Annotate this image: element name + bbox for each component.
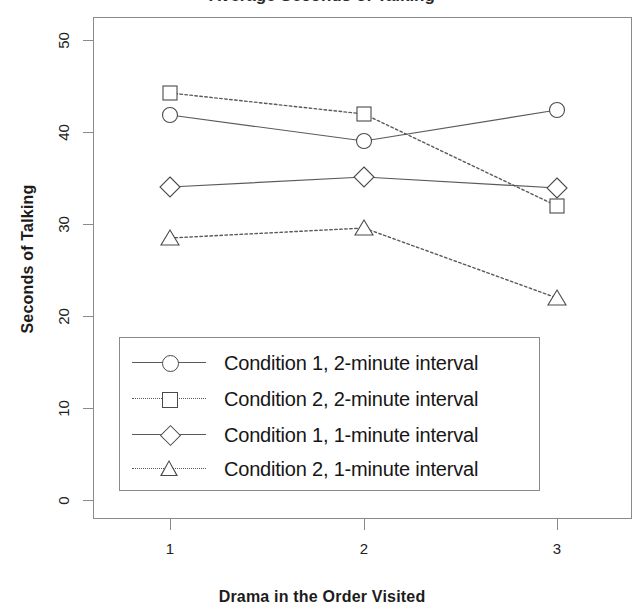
markers-square <box>163 86 564 213</box>
legend-key-diamond-solid <box>132 422 206 448</box>
y-axis-ticks <box>83 41 93 501</box>
chart-legend: Condition 1, 2-minute interval Condition… <box>119 337 540 491</box>
legend-key-square-dotted <box>132 386 206 412</box>
series-line-condition-2-1min <box>170 228 557 298</box>
legend-key-circle-solid <box>132 350 206 376</box>
markers-triangle <box>161 220 566 305</box>
triangle-marker-icon <box>160 460 178 476</box>
chart-figure: Average Seconds of Talking Seconds of Ta… <box>0 0 644 616</box>
legend-label-condition-1-1min: Condition 1, 1-minute interval <box>224 424 478 447</box>
legend-item-condition-1-2min: Condition 1, 2-minute interval <box>120 346 539 380</box>
markers-diamond <box>160 167 567 198</box>
diamond-marker-icon <box>160 425 181 446</box>
legend-item-condition-2-2min: Condition 2, 2-minute interval <box>120 382 539 416</box>
legend-key-triangle-dotted <box>132 456 206 482</box>
legend-item-condition-2-1min: Condition 2, 1-minute interval <box>120 452 539 486</box>
legend-label-condition-1-2min: Condition 1, 2-minute interval <box>224 352 478 375</box>
square-marker-icon <box>162 392 178 408</box>
legend-label-condition-2-2min: Condition 2, 2-minute interval <box>224 388 478 411</box>
circle-marker-icon <box>162 355 179 372</box>
x-axis-ticks <box>171 518 558 530</box>
plot-area <box>0 0 644 616</box>
legend-item-condition-1-1min: Condition 1, 1-minute interval <box>120 418 539 452</box>
legend-label-condition-2-1min: Condition 2, 1-minute interval <box>224 458 478 481</box>
